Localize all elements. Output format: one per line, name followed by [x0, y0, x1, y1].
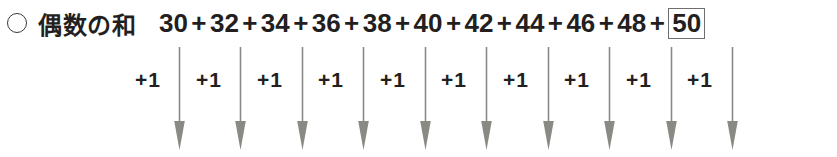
plus-one-label: +1: [503, 68, 529, 92]
term-value: 40: [414, 8, 443, 39]
plus-one-label: +1: [441, 68, 467, 92]
plus-one-label: +1: [687, 68, 713, 92]
arrow-down-icon: [665, 47, 678, 151]
answer-box[interactable]: 50: [668, 8, 705, 39]
plus-one-label: +1: [318, 68, 344, 92]
expression-sequence: 30 + 32 + 34 + 36 + 38 + 40 + 42 + 44 + …: [159, 8, 705, 39]
plus-operator: +: [646, 8, 668, 39]
plus-operator: +: [544, 8, 566, 39]
plus-operator: +: [443, 8, 465, 39]
plus-operator: +: [188, 8, 210, 39]
plus-one-label: +1: [564, 68, 590, 92]
term-value: 32: [210, 8, 239, 39]
plus-one-label: +1: [626, 68, 652, 92]
term-value: 42: [465, 8, 494, 39]
arrow-down-icon: [357, 47, 370, 151]
plus-one-label: +1: [196, 68, 222, 92]
arrow-down-icon: [480, 47, 493, 151]
plus-operator: +: [493, 8, 515, 39]
worksheet-canvas: 偶数の和 30 + 32 + 34 + 36 + 38 + 40 + 42 + …: [0, 0, 837, 157]
plus-operator: +: [595, 8, 617, 39]
term-value: 36: [312, 8, 341, 39]
arrow-down-icon: [173, 47, 186, 151]
plus-one-label: +1: [257, 68, 283, 92]
arrow-down-icon: [234, 47, 247, 151]
arrow-down-icon: [726, 47, 739, 151]
open-circle-icon: [7, 13, 27, 33]
arrow-down-icon: [542, 47, 555, 151]
arrow-down-icon: [419, 47, 432, 151]
expression-row: 偶数の和 30 + 32 + 34 + 36 + 38 + 40 + 42 + …: [0, 0, 837, 46]
term-value: 34: [261, 8, 290, 39]
expression-label: 偶数の和: [38, 6, 136, 41]
plus-operator: +: [392, 8, 414, 39]
term-value: 48: [617, 8, 646, 39]
plus-one-label: +1: [380, 68, 406, 92]
arrow-down-icon: [296, 47, 309, 151]
term-value: 38: [363, 8, 392, 39]
term-value: 44: [515, 8, 544, 39]
plus-operator: +: [290, 8, 312, 39]
term-value: 30: [159, 8, 188, 39]
term-value: 46: [566, 8, 595, 39]
plus-one-label: +1: [135, 68, 161, 92]
arrow-down-icon: [603, 47, 616, 151]
plus-operator: +: [341, 8, 363, 39]
plus-operator: +: [239, 8, 261, 39]
